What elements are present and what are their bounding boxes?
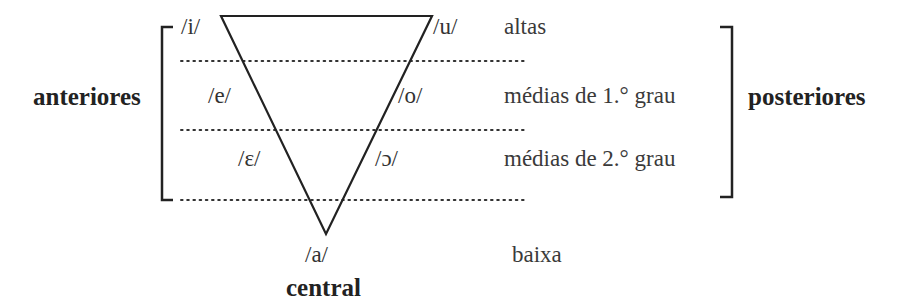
right-bracket [720,27,732,197]
height-label-medias-2: médias de 2.° grau [504,147,675,170]
label-anteriores: anteriores [33,84,141,109]
diagram-lines [0,0,906,306]
vowel-e: /e/ [208,84,231,107]
label-central: central [286,275,361,300]
vowel-o: /o/ [398,84,422,107]
vowel-open-e: /ɛ/ [238,147,260,170]
vowel-u: /u/ [433,15,457,38]
label-posteriores: posteriores [748,84,866,109]
height-label-altas: altas [504,15,546,38]
vowel-triangle [221,16,432,234]
height-label-medias-1: médias de 1.° grau [504,84,675,107]
vowel-open-o: /ɔ/ [375,147,398,170]
vowel-i: /i/ [181,15,200,38]
vowel-a: /a/ [305,243,328,266]
left-bracket [162,27,173,200]
vowel-triangle-diagram: anteriores posteriores central /i/ /u/ /… [0,0,906,306]
height-label-baixa: baixa [512,243,562,266]
